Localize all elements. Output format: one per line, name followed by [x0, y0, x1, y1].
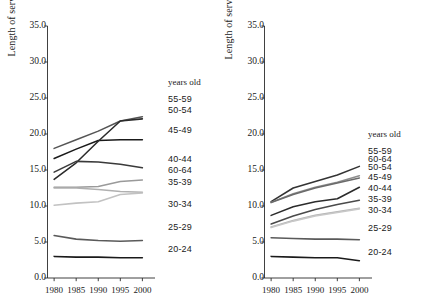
x-tick-label: 2000 — [133, 286, 151, 295]
legend-title: years old — [368, 130, 401, 139]
legend-entry-35-39: 35-39 — [168, 178, 192, 187]
legend-entry-30-34: 30-34 — [168, 200, 192, 209]
legend-entry-40-44: 40-44 — [168, 155, 192, 164]
x-tick-label: 1980 — [45, 286, 63, 295]
x-tick-label: 1990 — [89, 286, 107, 295]
legend-entry-25-29: 25-29 — [168, 223, 192, 232]
x-axis-tick-labels-right: 19801985199019952000 — [218, 0, 436, 307]
x-tick-label: 1985 — [284, 286, 302, 295]
x-tick-label: 1995 — [328, 286, 346, 295]
legend-entry-45-49: 45-49 — [168, 126, 192, 135]
legend-entry-50-54: 50-54 — [168, 106, 192, 115]
x-tick-label: 1985 — [67, 286, 85, 295]
x-tick-label: 2000 — [350, 286, 368, 295]
legend-entry-20-24: 20-24 — [168, 245, 192, 254]
legend-entry-30-34: 30-34 — [368, 206, 392, 215]
figure-two-line-charts: Length of service (years) 35.030.025.020… — [0, 0, 436, 307]
legend-entry-50-54: 50-54 — [368, 163, 392, 172]
legend-entry-20-24: 20-24 — [368, 248, 392, 257]
legend-title: years old — [168, 78, 201, 87]
legend-entry-25-29: 25-29 — [368, 224, 392, 233]
legend-entry-55-59: 55-59 — [168, 95, 192, 104]
x-tick-label: 1980 — [262, 286, 280, 295]
x-tick-label: 1995 — [111, 286, 129, 295]
chart-panel-right: Length of service (years) 35.030.025.020… — [218, 0, 436, 307]
chart-panel-left: Length of service (years) 35.030.025.020… — [0, 0, 218, 307]
legend-entry-40-44: 40-44 — [368, 184, 392, 193]
legend-entry-35-39: 35-39 — [368, 195, 392, 204]
x-tick-label: 1990 — [306, 286, 324, 295]
legend-entry-60-64: 60-64 — [168, 166, 192, 175]
legend-entry-45-49: 45-49 — [368, 173, 392, 182]
